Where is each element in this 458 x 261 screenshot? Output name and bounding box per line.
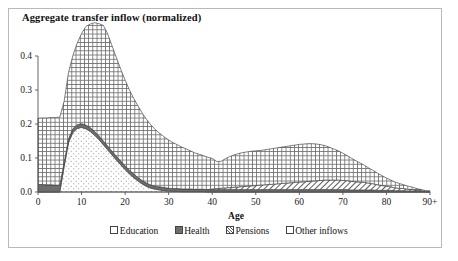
chart-canvas: 0.00.10.20.30.40102030405060708090+ Age	[0, 0, 458, 261]
legend-item-other-inflows[interactable]: Other inflows	[286, 225, 348, 236]
x-tick-label: 10	[77, 197, 87, 207]
legend-label-pensions: Pensions	[235, 226, 269, 236]
other-inflows-swatch-icon	[286, 226, 294, 234]
x-axis-title: Age	[228, 211, 244, 221]
x-tick-label: 60	[295, 197, 305, 207]
y-tick-label: 0.3	[20, 85, 32, 95]
y-tick-label: 0.2	[20, 119, 32, 129]
health-swatch-icon	[175, 226, 183, 234]
legend-label-education: Education	[120, 226, 159, 236]
stacked-area-chart: 0.00.10.20.30.40102030405060708090+ Age	[0, 0, 458, 261]
legend-item-pensions[interactable]: Pensions	[226, 225, 269, 236]
x-tick-label: 0	[36, 197, 41, 207]
legend-label-health: Health	[184, 226, 209, 236]
legend-item-health[interactable]: Health	[175, 225, 210, 236]
x-tick-label: 70	[338, 197, 348, 207]
pensions-swatch-icon	[226, 226, 234, 234]
area-series-group	[38, 23, 430, 192]
x-tick-label: 90+	[423, 197, 438, 207]
x-tick-label: 20	[120, 197, 130, 207]
x-tick-label: 30	[164, 197, 174, 207]
x-tick-label: 50	[251, 197, 261, 207]
education-swatch-icon	[110, 226, 118, 234]
y-tick-label: 0.1	[20, 153, 32, 163]
y-tick-label: 0.0	[20, 187, 32, 197]
legend-label-other-inflows: Other inflows	[295, 226, 348, 236]
x-tick-label: 80	[382, 197, 392, 207]
chart-legend: Education Health Pensions Other inflows	[0, 225, 458, 236]
y-tick-label: 0.4	[20, 51, 32, 61]
legend-item-education[interactable]: Education	[110, 225, 158, 236]
x-tick-label: 40	[207, 197, 217, 207]
